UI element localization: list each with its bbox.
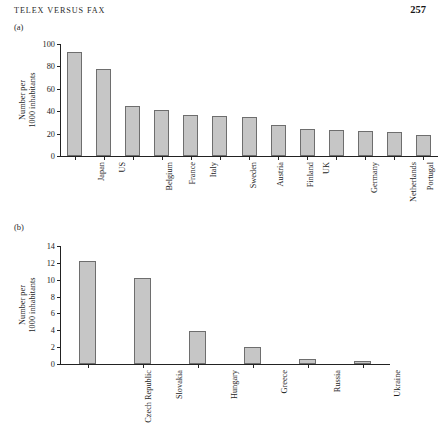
chart-a-y-axis-title: Number per1000 inhabitants xyxy=(18,44,39,156)
chart-a-x-tick xyxy=(133,156,134,160)
chart-a-x-tick xyxy=(220,156,221,160)
chart-b-y-tick-label: 12 xyxy=(47,258,55,267)
chart-b-x-category-label: Hungary xyxy=(230,370,239,399)
chart-b-y-tick-label: 8 xyxy=(51,292,55,301)
chart-a-bar xyxy=(387,132,402,156)
chart-a-y-axis-line xyxy=(60,44,61,156)
chart-a-bar xyxy=(358,131,373,156)
chart-b-y-tick-label: 10 xyxy=(47,275,55,284)
chart-a-x-category-label: Sweden xyxy=(249,162,258,188)
chart-a-x-tick xyxy=(278,156,279,160)
chart-b-y-axis-line xyxy=(60,246,61,364)
chart-b-y-tick xyxy=(57,364,61,365)
chart-b-y-tick xyxy=(57,297,61,298)
chart-a-x-category-label: France xyxy=(188,162,197,185)
chart-b-x-tick xyxy=(143,364,144,368)
chart-a-x-category-label: Japan xyxy=(97,162,106,181)
page-number: 257 xyxy=(410,4,426,15)
chart-a-y-tick xyxy=(57,66,61,67)
chart-b-y-tick xyxy=(57,263,61,264)
chart-a-plot-area: 020406080100JapanUSBelgiumFranceItalySwe… xyxy=(60,44,438,156)
chart-b-y-axis-title-line-1: 1000 inhabitants xyxy=(28,246,38,364)
chart-a-x-tick xyxy=(249,156,250,160)
chart-b-y-axis-title: Number per1000 inhabitants xyxy=(18,246,39,364)
chart-b-plot-area: 02468101214Czech RepublicSlovakiaHungary… xyxy=(60,246,390,364)
chart-a-x-category-label: Belgium xyxy=(164,162,173,191)
chart-a-x-tick xyxy=(307,156,308,160)
chart-b-bar xyxy=(134,278,151,364)
chart-a-x-tick xyxy=(162,156,163,160)
chart-a-x-category-label: UK xyxy=(322,162,331,174)
chart-a-y-axis-title-line-0: Number per xyxy=(18,44,28,156)
chart-a-bar xyxy=(300,129,315,156)
chart-b-x-category-label: Czech Republic xyxy=(143,370,152,423)
chart-a-bar xyxy=(96,69,111,156)
figure-panel-a: (a) Number per1000 inhabitants0204060801… xyxy=(14,22,434,222)
chart-b-y-tick-label: 4 xyxy=(51,326,55,335)
chart-a-y-tick-label: 40 xyxy=(47,107,55,116)
page: TELEX VERSUS FAX 257 (a) Number per1000 … xyxy=(0,0,440,442)
chart-b-x-category-label: Greece xyxy=(279,370,288,394)
chart-b-x-tick xyxy=(88,364,89,368)
chart-a-y-tick-label: 60 xyxy=(47,84,55,93)
chart-a-x-tick xyxy=(75,156,76,160)
chart-a-bar xyxy=(271,125,286,156)
chart-a-bar xyxy=(212,116,227,156)
chart-a-y-tick xyxy=(57,89,61,90)
chart-b-y-tick-label: 6 xyxy=(51,309,55,318)
chart-b-y-tick-label: 2 xyxy=(51,343,55,352)
chart-a-y-tick xyxy=(57,156,61,157)
chart-b-x-tick xyxy=(198,364,199,368)
chart-a-y-tick xyxy=(57,44,61,45)
chart-a-y-tick-label: 100 xyxy=(43,40,55,49)
chart-a-x-tick xyxy=(336,156,337,160)
chart-a-y-tick xyxy=(57,134,61,135)
chart-b-y-tick xyxy=(57,246,61,247)
chart-a-x-tick xyxy=(394,156,395,160)
chart-a-y-tick-label: 80 xyxy=(47,62,55,71)
chart-a-bar xyxy=(329,130,344,156)
panel-label-a: (a) xyxy=(14,22,23,32)
chart-a-y-axis-title-line-1: 1000 inhabitants xyxy=(28,44,38,156)
chart-a-x-category-label: Italy xyxy=(209,162,218,177)
chart-b-x-tick xyxy=(308,364,309,368)
chart-a-x-category-label: Netherlands xyxy=(409,162,418,202)
chart-b-x-category-label: Russia xyxy=(333,370,342,392)
chart-a-bar xyxy=(416,135,431,156)
chart-b-y-tick xyxy=(57,280,61,281)
chart-b-x-tick xyxy=(363,364,364,368)
chart-b-x-category-label: Ukraine xyxy=(392,370,401,397)
chart-b-x-tick xyxy=(253,364,254,368)
chart-b-bar xyxy=(244,347,261,364)
chart-a-y-tick xyxy=(57,111,61,112)
chart-a-x-tick xyxy=(423,156,424,160)
chart-b-x-axis-line xyxy=(60,364,390,365)
figure-panel-b: (b) Number per1000 inhabitants0246810121… xyxy=(14,222,434,442)
chart-a-y-tick-label: 0 xyxy=(51,152,55,161)
chart-a-x-category-label: Germany xyxy=(370,162,379,193)
chart-a-x-category-label: Austria xyxy=(277,162,286,186)
chart-b-y-tick xyxy=(57,347,61,348)
chart-b-y-tick xyxy=(57,330,61,331)
running-head: TELEX VERSUS FAX xyxy=(14,6,105,15)
chart-a-bar xyxy=(242,117,257,156)
chart-b-y-axis-title-line-0: Number per xyxy=(18,246,28,364)
chart-a-x-tick xyxy=(191,156,192,160)
chart-b-y-tick-label: 0 xyxy=(51,360,55,369)
chart-a-x-tick xyxy=(104,156,105,160)
chart-a-bar xyxy=(125,106,140,156)
chart-a-x-tick xyxy=(365,156,366,160)
chart-a-x-category-label: Finland xyxy=(307,162,316,187)
chart-a-bar xyxy=(67,52,82,156)
chart-a-x-category-label: US xyxy=(117,162,126,173)
chart-b-y-tick-label: 14 xyxy=(47,242,55,251)
chart-b-y-tick xyxy=(57,313,61,314)
chart-b-bar xyxy=(189,331,206,364)
chart-a-bar xyxy=(183,115,198,156)
chart-b-bar xyxy=(79,261,96,364)
chart-a-bar xyxy=(154,110,169,156)
chart-a-x-category-label: Portugal xyxy=(426,162,435,190)
chart-b-x-category-label: Slovakia xyxy=(175,370,184,399)
chart-a-y-tick-label: 20 xyxy=(47,129,55,138)
panel-label-b: (b) xyxy=(14,222,24,232)
